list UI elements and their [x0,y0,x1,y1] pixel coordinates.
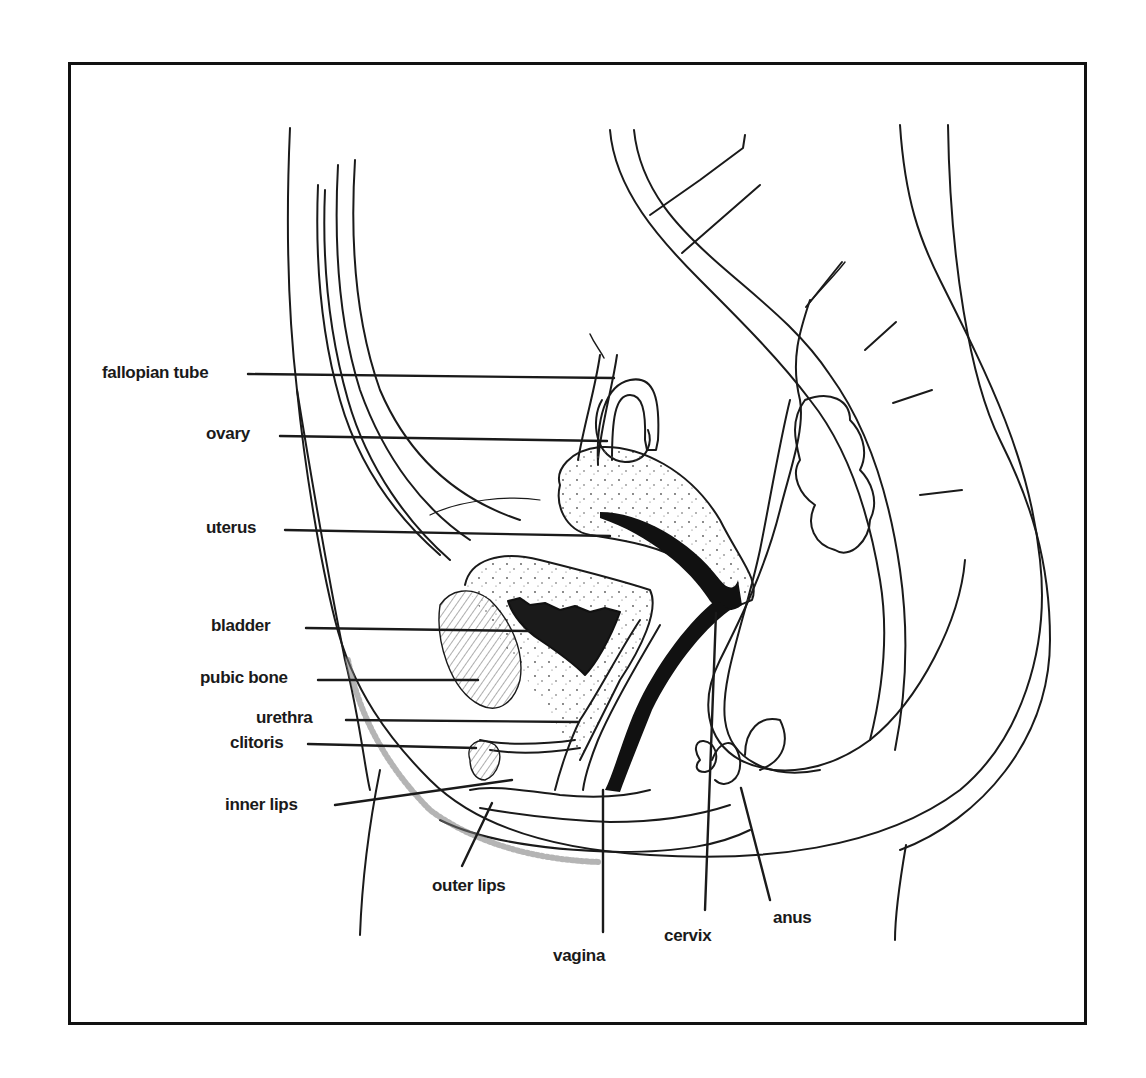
thigh-left-line [360,770,380,935]
label-cervix: cervix [664,926,711,946]
label-bladder: bladder [211,616,270,636]
label-vagina: vagina [553,946,605,966]
rectum-wall [708,300,965,770]
anatomy-illustration [0,0,1146,1078]
label-outer-lips: outer lips [432,876,506,896]
label-clitoris: clitoris [230,733,283,753]
leader-clitoris [308,744,476,748]
colon-bulges [795,396,874,553]
label-inner-lips: inner lips [225,795,298,815]
label-uterus: uterus [206,518,256,538]
leader-fallopian-tube [248,374,614,378]
leader-ovary [280,436,607,441]
leader-anus [741,788,770,900]
label-pubic-bone: pubic bone [200,668,288,688]
leader-uterus [285,530,610,536]
label-ovary: ovary [206,424,250,444]
leader-cervix [705,613,716,910]
label-urethra: urethra [256,708,312,728]
label-fallopian-tube: fallopian tube [102,363,208,383]
label-anus: anus [773,908,811,928]
sacrum-anterior [610,130,884,740]
